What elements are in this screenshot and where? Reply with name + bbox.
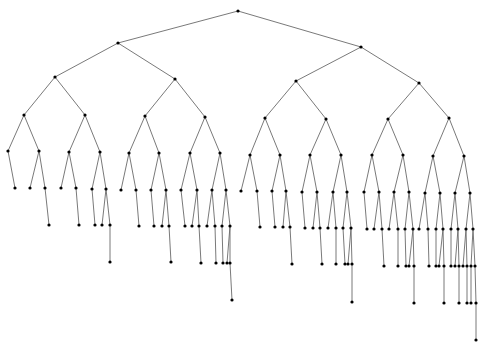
tree-node [143, 114, 146, 117]
tree-edge [265, 118, 280, 155]
tree-edge [405, 192, 409, 229]
tree-edge [310, 119, 326, 155]
tree-node [205, 224, 208, 227]
tree-edge [466, 193, 470, 229]
tree-node [315, 190, 318, 193]
tree-edge [250, 118, 265, 155]
tree-node [334, 262, 337, 265]
tree-node [179, 188, 182, 191]
tree-node [412, 301, 415, 304]
tree-node [47, 223, 50, 226]
tree-node [359, 45, 362, 48]
tree-edge [118, 11, 238, 43]
tree-node [449, 264, 452, 267]
tree-node [278, 153, 281, 156]
tree-node [417, 227, 420, 230]
tree-edge [419, 193, 425, 229]
tree-node [411, 227, 414, 230]
tree-edge [425, 193, 428, 229]
tree-edge [190, 117, 205, 153]
tree-edge [455, 156, 464, 193]
tree-edge [451, 193, 455, 229]
tree-edge [199, 226, 201, 263]
tree-edge [379, 192, 382, 229]
tree-node [434, 227, 437, 230]
tree-node [471, 227, 474, 230]
tree-edge [55, 43, 118, 77]
tree-edge [290, 227, 292, 264]
tree-edge [92, 152, 100, 189]
tree-node [334, 226, 337, 229]
tree-edge [166, 190, 169, 226]
tree-edge [222, 226, 223, 263]
tree-edge [372, 119, 388, 155]
tree-node [108, 223, 111, 226]
tree-edge [372, 155, 379, 192]
tree-edge [8, 115, 24, 151]
tree-node [224, 188, 227, 191]
tree-edge [286, 191, 290, 227]
tree-node [438, 191, 441, 194]
tree-edge [296, 81, 326, 119]
tree-node [465, 264, 468, 267]
tree-node [345, 190, 348, 193]
tree-edge [433, 156, 440, 193]
tree-node [190, 224, 193, 227]
tree-node [308, 153, 311, 156]
tree-node [442, 264, 445, 267]
tree-node [173, 77, 176, 80]
tree-node [311, 226, 314, 229]
tree-node [100, 223, 103, 226]
tree-node [108, 260, 111, 263]
tree-node [83, 113, 86, 116]
tree-edge [347, 192, 351, 228]
tree-edge [443, 229, 444, 266]
tree-edge [455, 229, 458, 266]
tree-edge [333, 192, 336, 228]
tree-edge [409, 192, 413, 229]
tree-node [324, 117, 327, 120]
tree-node [270, 189, 273, 192]
tree-node [474, 301, 477, 304]
tree-edge [428, 229, 429, 266]
tree-edge [296, 47, 361, 81]
tree-node [377, 190, 380, 193]
tree-node [199, 261, 202, 264]
tree-node [372, 227, 375, 230]
tree-edge [181, 153, 190, 190]
tree-node [160, 224, 163, 227]
tree-edge [364, 192, 367, 229]
tree-node [370, 153, 373, 156]
tree-node [169, 260, 172, 263]
tree-node [442, 301, 445, 304]
tree-node [473, 264, 476, 267]
tree-edge [361, 47, 419, 83]
tree-node [404, 264, 407, 267]
tree-edge [382, 229, 384, 266]
tree-edge [265, 81, 296, 118]
tree-node [303, 226, 306, 229]
tree-edge [55, 77, 85, 115]
tree-edge [425, 156, 433, 193]
tree-node [453, 191, 456, 194]
tree-node [300, 190, 303, 193]
tree-nodes [6, 9, 477, 341]
tree-edge [403, 155, 409, 192]
tree-node [362, 190, 365, 193]
tree-node [127, 151, 130, 154]
tree-node [396, 227, 399, 230]
tree-edge [283, 191, 286, 227]
tree-node [197, 224, 200, 227]
tree-node [239, 189, 242, 192]
tree-node [474, 338, 477, 341]
tree-edge [394, 192, 398, 229]
tree-edge [343, 192, 347, 228]
tree-edge [433, 118, 449, 156]
tree-edge [473, 229, 475, 266]
tree-edge [436, 193, 440, 229]
tree-edge [212, 153, 220, 190]
tree-edge [205, 117, 220, 153]
tree-edge [24, 77, 55, 115]
tree-node [28, 186, 31, 189]
tree-node [220, 224, 223, 227]
